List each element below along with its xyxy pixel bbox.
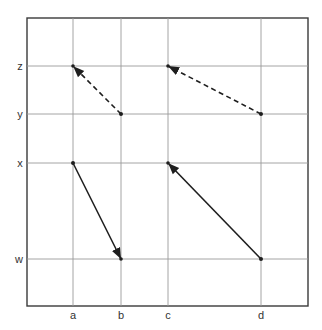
point-a-z (71, 64, 75, 68)
y-axis-labels: z y x w (14, 60, 23, 265)
point-b-y (119, 112, 123, 116)
x-label-d: d (258, 309, 264, 321)
solid-arrow-dw-to-cx (169, 164, 261, 259)
y-label-w: w (14, 253, 23, 265)
dashed-arrow-dy-to-cz (169, 67, 261, 115)
point-d-w (259, 257, 263, 261)
point-c-x (166, 161, 170, 165)
dashed-arrow-by-to-az (74, 67, 121, 114)
solid-arrow-ax-to-bw (73, 163, 121, 258)
y-label-z: z (17, 60, 23, 72)
x-label-c: c (165, 309, 171, 321)
vector-grid-diagram: a b c d z y x w (0, 0, 322, 330)
point-d-y (259, 112, 263, 116)
point-a-x (71, 161, 75, 165)
point-c-z (166, 64, 170, 68)
y-label-x: x (17, 157, 23, 169)
y-label-y: y (17, 108, 23, 120)
x-label-b: b (118, 309, 124, 321)
x-axis-labels: a b c d (70, 309, 264, 321)
point-b-w (119, 257, 123, 261)
x-label-a: a (70, 309, 77, 321)
